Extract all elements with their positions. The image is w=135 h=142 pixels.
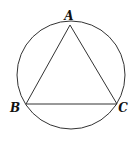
- vertex-label-a: A: [63, 9, 73, 23]
- vertex-label-c: C: [118, 101, 128, 115]
- vertex-label-b: B: [9, 101, 20, 115]
- geometry-figure: A B C: [0, 0, 135, 142]
- circumcircle: [17, 21, 125, 129]
- triangle-abc: [26, 25, 117, 104]
- diagram-canvas: A B C: [0, 0, 135, 142]
